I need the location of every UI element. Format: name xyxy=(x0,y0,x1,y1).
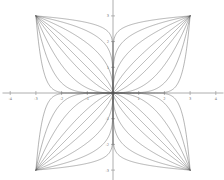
power-curve xyxy=(36,16,113,93)
x-tick-label: 4 xyxy=(215,97,218,101)
x-tick-label: 2 xyxy=(163,97,165,101)
power-curve xyxy=(113,93,190,170)
y-tick-label: 2 xyxy=(107,40,109,44)
power-curve xyxy=(113,16,190,93)
power-curve xyxy=(36,93,113,170)
x-tick-label: -3 xyxy=(34,97,38,101)
x-tick-label: 3 xyxy=(189,97,191,101)
y-tick-label: 3 xyxy=(107,14,109,18)
y-tick-label: -3 xyxy=(105,169,109,173)
x-tick-label: -4 xyxy=(8,97,12,101)
plot-figure: -4-3-2-101234-4-3-2-11234 xyxy=(0,0,224,180)
y-tick-label: -2 xyxy=(105,143,109,147)
x-tick-label: -2 xyxy=(60,97,64,101)
plot-canvas: -4-3-2-101234-4-3-2-11234 xyxy=(0,0,224,180)
